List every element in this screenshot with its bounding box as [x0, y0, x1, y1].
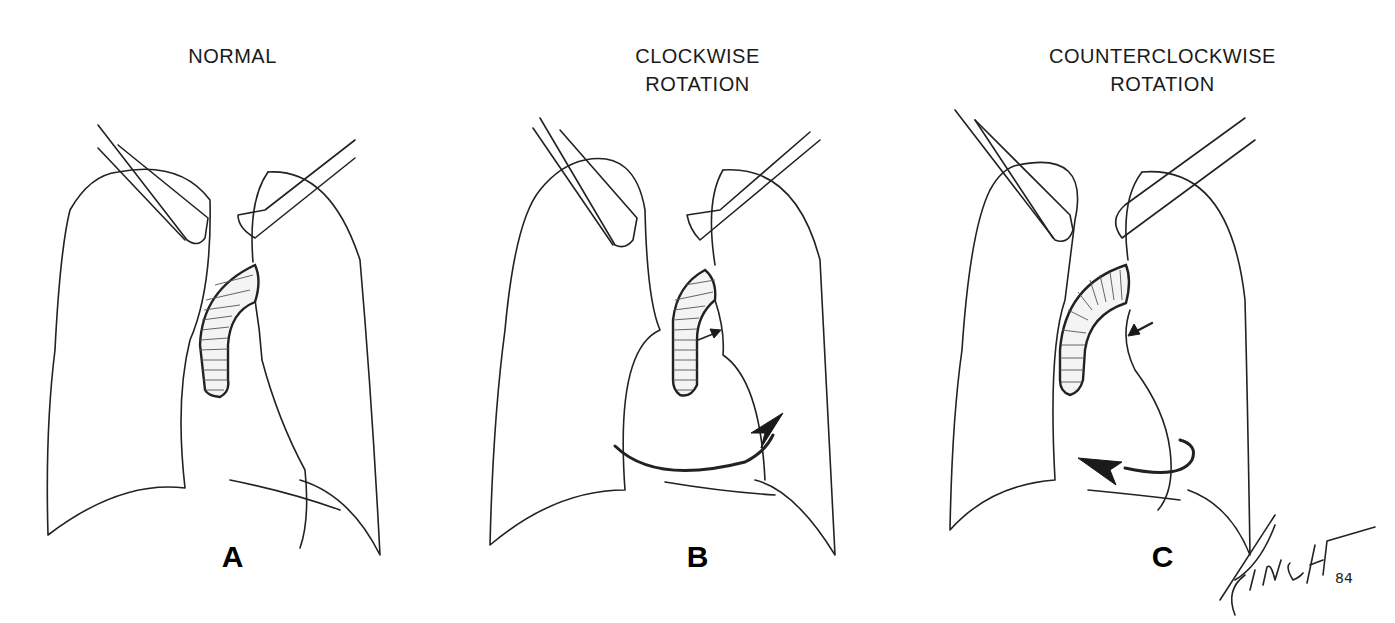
- small-arrow-icon: [698, 329, 721, 340]
- signature-year: 84: [1335, 570, 1353, 586]
- aortic-arch: [200, 265, 259, 397]
- counterclockwise-arrow-icon: [1078, 440, 1194, 485]
- panel-letter: A: [0, 540, 465, 574]
- small-arrow-icon: [1128, 323, 1152, 336]
- panel-clockwise: CLOCKWISE ROTATION B: [465, 0, 930, 623]
- aortic-arch: [1060, 265, 1129, 395]
- aortic-arch: [673, 270, 715, 396]
- chest-outline-clockwise: [465, 0, 930, 623]
- panel-normal: NORMAL A: [0, 0, 465, 623]
- panel-letter: B: [465, 540, 930, 574]
- chest-outline-normal: [0, 0, 465, 623]
- artist-signature: 84: [1215, 505, 1395, 623]
